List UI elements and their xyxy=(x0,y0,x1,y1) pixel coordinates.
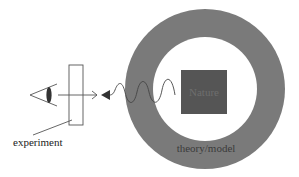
observation-arrow xyxy=(58,91,97,99)
filled-arrowhead-icon xyxy=(101,90,110,100)
experiment-label: experiment xyxy=(13,136,62,148)
theory-model-label: theory/model xyxy=(177,142,236,154)
nature-label: Nature xyxy=(189,86,219,98)
nature-node: Nature xyxy=(181,70,227,114)
experiment-leader-line xyxy=(33,120,72,135)
diagram-canvas: Nature theory/model experiment xyxy=(0,0,299,177)
eye-icon xyxy=(30,84,57,106)
